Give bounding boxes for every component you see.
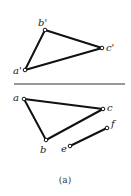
edge-e-f xyxy=(70,128,107,146)
edge-c-prime-a-prime xyxy=(25,48,102,70)
label-f: f xyxy=(110,118,117,129)
point-b-prime xyxy=(43,28,47,32)
edge-b-prime-c-prime xyxy=(45,30,102,48)
label-a: a xyxy=(13,92,19,103)
edge-b-c xyxy=(46,109,103,140)
edge-a-b xyxy=(24,99,46,140)
label-a-prime: a' xyxy=(13,65,22,76)
upper-view: a' b' c' xyxy=(13,17,114,76)
edge-a-prime-b-prime xyxy=(25,30,45,70)
lower-view: a b c e f xyxy=(13,92,117,155)
label-c: c xyxy=(107,102,113,113)
point-a-prime xyxy=(23,68,27,72)
label-e: e xyxy=(61,143,67,154)
point-b xyxy=(44,138,48,142)
projection-diagram: a' b' c' a b c e f (a) xyxy=(0,0,131,196)
label-c-prime: c' xyxy=(106,42,114,53)
point-c xyxy=(101,107,105,111)
label-b: b xyxy=(40,144,46,155)
point-e xyxy=(68,144,72,148)
edge-c-a xyxy=(24,99,103,109)
point-c-prime xyxy=(100,46,104,50)
point-f xyxy=(105,126,109,130)
point-a xyxy=(22,97,26,101)
label-b-prime: b' xyxy=(38,17,47,28)
figure-caption: (a) xyxy=(59,175,71,185)
